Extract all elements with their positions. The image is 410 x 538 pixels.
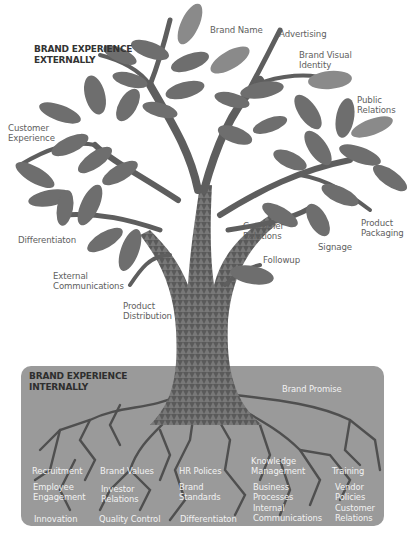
internal-heading-line1: BRAND EXPERIENCE	[29, 371, 127, 382]
label-customer-relations: Customer Relations	[243, 221, 284, 241]
label-brand-promise: Brand Promise	[282, 384, 342, 394]
label-followup: Followup	[263, 255, 300, 265]
label-vendor-policies: Vendor Policies	[335, 482, 365, 502]
label-customer-experience: Customer Experience	[8, 123, 55, 143]
external-heading: BRAND EXPERIENCE EXTERNALLY	[34, 44, 132, 66]
external-heading-line1: BRAND EXPERIENCE	[34, 44, 132, 55]
label-recruitment: Recruitment	[32, 466, 82, 476]
label-business-processes: Business Processes	[253, 482, 293, 502]
label-brand-standards: Brand Standards	[179, 482, 221, 502]
label-hr-policies: HR Polices	[179, 466, 221, 476]
label-differentiation-internal: Differentiaton	[180, 514, 237, 524]
label-internal-communications: Internal Communications	[253, 503, 322, 523]
label-employee-engagement: Employee Engagement	[33, 482, 85, 502]
label-customer-relations-internal: Customer Relations	[335, 503, 375, 523]
label-knowledge-management: Knowledge Management	[251, 456, 305, 476]
external-heading-line2: EXTERNALLY	[34, 55, 132, 66]
internal-heading-line2: INTERNALLY	[29, 382, 127, 393]
brand-experience-tree-diagram: BRAND EXPERIENCE EXTERNALLY Brand Name A…	[0, 0, 410, 538]
label-innovation: Innovation	[34, 514, 77, 524]
label-brand-values: Brand Values	[100, 466, 154, 476]
label-product-distribution: Product Distribution	[123, 301, 172, 321]
label-advertising: Advertising	[279, 29, 327, 39]
label-public-relations: Public Relations	[357, 95, 396, 115]
label-brand-name: Brand Name	[210, 25, 263, 35]
label-brand-visual-identity: Brand Visual Identity	[299, 50, 352, 70]
tree-illustration	[0, 0, 410, 538]
label-quality-control: Quality Control	[99, 514, 160, 524]
label-investor-relations: Investor Relations	[101, 484, 139, 504]
label-signage: Signage	[318, 242, 352, 252]
label-differentiation: Differentiaton	[18, 235, 76, 245]
label-external-communications: External Communications	[53, 271, 124, 291]
label-product-packaging: Product Packaging	[361, 218, 404, 238]
internal-heading: BRAND EXPERIENCE INTERNALLY	[29, 371, 127, 393]
label-training: Training	[332, 466, 364, 476]
